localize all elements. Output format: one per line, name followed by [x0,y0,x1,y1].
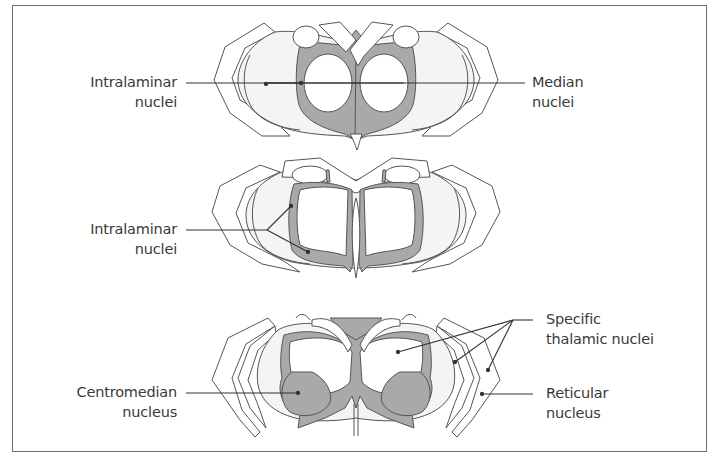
label-line: thalamic nuclei [546,329,654,349]
label-line: nuclei [90,92,177,112]
label-line: Reticular [546,383,608,403]
label-line: nucleus [546,403,608,423]
label-specific-thalamic-nuclei: Specific thalamic nuclei [546,309,654,349]
bottom-section [212,314,500,437]
label-middle-intralaminar-nuclei: Intralaminar nuclei [90,219,177,259]
label-median-nuclei: Median nuclei [532,72,584,112]
label-line: Median [532,72,584,92]
label-line: Intralaminar [90,72,177,92]
label-line: nucleus [77,402,177,422]
label-line: Specific [546,309,654,329]
label-reticular-nucleus: Reticular nucleus [546,383,608,423]
label-line: nuclei [90,239,177,259]
label-line: Centromedian [77,382,177,402]
label-centromedian-nucleus: Centromedian nucleus [77,382,177,422]
label-top-intralaminar-nuclei: Intralaminar nuclei [90,72,177,112]
middle-section [212,158,500,278]
label-line: nuclei [532,92,584,112]
label-line: Intralaminar [90,219,177,239]
top-section [214,22,498,150]
